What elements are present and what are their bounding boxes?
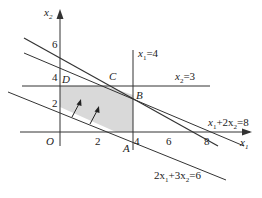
x-tick-4: 4	[134, 135, 140, 147]
x-tick-2: 2	[95, 135, 101, 147]
origin-label: O	[46, 135, 54, 147]
point-label-b: B	[136, 89, 143, 101]
point-label-d: D	[61, 73, 70, 85]
x-axis-label: x1	[239, 136, 248, 151]
label-x2-eq-3: x2=3	[174, 70, 196, 85]
y-tick-4: 4	[52, 71, 58, 83]
y-axis-label: x2	[43, 6, 53, 21]
label-x1-plus-2x2-eq-8: x1+2x2=8	[207, 116, 249, 131]
label-2x1-plus-3x2-eq-6: 2x1+3x2=6	[154, 169, 201, 184]
y-tick-6: 6	[52, 38, 58, 50]
x-tick-8: 8	[204, 135, 210, 147]
point-label-a: A	[122, 142, 130, 154]
label-x1-eq-4: x1=4	[137, 47, 159, 62]
point-label-c: C	[109, 70, 117, 82]
lp-diagram: x2 x1 O 2 4 6 8 2 4 6 D C B A x1=4 x2=3 …	[0, 0, 262, 198]
y-tick-2: 2	[52, 97, 58, 109]
x-tick-6: 6	[166, 135, 172, 147]
y-axis-arrow-icon	[57, 9, 64, 19]
x-axis-arrow-icon	[242, 129, 252, 136]
